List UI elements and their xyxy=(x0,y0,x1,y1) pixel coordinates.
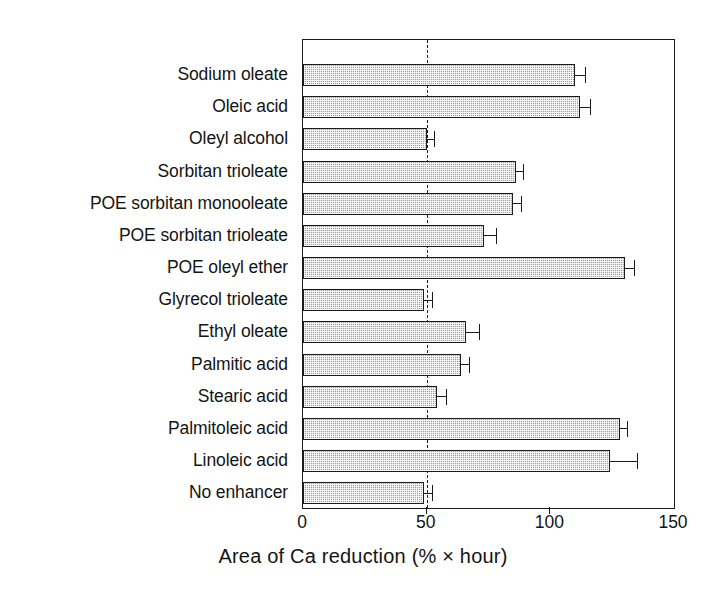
error-bar-line xyxy=(513,203,520,204)
x-tick-label: 100 xyxy=(535,512,564,532)
error-bar-cap xyxy=(469,357,470,373)
bar xyxy=(303,482,424,504)
category-label: POE sorbitan trioleate xyxy=(119,226,288,244)
bar xyxy=(303,96,580,118)
error-bar-line xyxy=(620,428,627,429)
category-label: Linoleic acid xyxy=(193,451,288,469)
error-bar-line xyxy=(427,139,434,140)
x-tick-label: 50 xyxy=(416,512,435,532)
bar xyxy=(303,64,575,86)
plot-area xyxy=(302,39,675,509)
bar xyxy=(303,386,437,408)
error-bar-cap xyxy=(627,421,628,437)
error-bar-line xyxy=(484,235,496,236)
error-bar-line xyxy=(575,75,585,76)
bar-chart-figure: Sodium oleateOleic acidOleyl alcoholSorb… xyxy=(0,0,726,597)
error-bar-cap xyxy=(432,485,433,501)
error-bar-cap xyxy=(590,99,591,115)
bar-row xyxy=(303,289,674,311)
bar-row xyxy=(303,225,674,247)
bar-row xyxy=(303,418,674,440)
error-bar-cap xyxy=(432,292,433,308)
category-label: POE sorbitan monooleate xyxy=(90,194,288,212)
bar-row xyxy=(303,321,674,343)
error-bar-cap xyxy=(585,67,586,83)
error-bar-line xyxy=(516,171,523,172)
category-label: Ethyl oleate xyxy=(198,322,288,340)
bar-row xyxy=(303,96,674,118)
category-label: Glyrecol trioleate xyxy=(158,290,288,308)
bar xyxy=(303,354,461,376)
category-label: Sorbitan trioleate xyxy=(157,162,288,180)
x-tick-label: 0 xyxy=(297,512,307,532)
bar xyxy=(303,193,513,215)
category-axis-labels: Sodium oleateOleic acidOleyl alcoholSorb… xyxy=(0,39,296,507)
error-bar-cap xyxy=(634,260,635,276)
category-label: No enhancer xyxy=(189,483,288,501)
error-bar-line xyxy=(461,364,468,365)
bar xyxy=(303,161,516,183)
error-bar-line xyxy=(610,461,637,462)
error-bar-line xyxy=(625,268,635,269)
x-axis-title: Area of Ca reduction (% × hour) xyxy=(0,545,726,568)
bar-row xyxy=(303,64,674,86)
bar-row xyxy=(303,482,674,504)
error-bar-line xyxy=(580,107,590,108)
category-label: Oleyl alcohol xyxy=(189,129,288,147)
error-bar-line xyxy=(466,332,478,333)
bar xyxy=(303,128,427,150)
category-label: POE oleyl ether xyxy=(167,258,288,276)
x-tick-label: 150 xyxy=(658,512,687,532)
bar xyxy=(303,418,620,440)
error-bar-cap xyxy=(521,196,522,212)
error-bar-line xyxy=(424,300,431,301)
error-bar-cap xyxy=(434,131,435,147)
bar-row xyxy=(303,193,674,215)
bar xyxy=(303,321,466,343)
bar-row xyxy=(303,386,674,408)
category-label: Stearic acid xyxy=(198,387,288,405)
bar-row xyxy=(303,128,674,150)
category-label: Palmitic acid xyxy=(191,355,288,373)
bar xyxy=(303,289,424,311)
bar xyxy=(303,450,610,472)
error-bar-cap xyxy=(637,453,638,469)
x-axis-ticks xyxy=(302,507,673,515)
category-label: Sodium oleate xyxy=(177,65,288,83)
error-bar-cap xyxy=(446,389,447,405)
bar-row xyxy=(303,450,674,472)
bar xyxy=(303,257,625,279)
bar-row xyxy=(303,161,674,183)
bar xyxy=(303,225,484,247)
error-bar-line xyxy=(424,493,431,494)
bar-row xyxy=(303,257,674,279)
category-label: Palmitoleic acid xyxy=(168,419,288,437)
error-bar-cap xyxy=(479,324,480,340)
bar-row xyxy=(303,354,674,376)
category-label: Oleic acid xyxy=(212,97,288,115)
error-bar-cap xyxy=(523,164,524,180)
error-bar-line xyxy=(437,396,447,397)
error-bar-cap xyxy=(496,228,497,244)
